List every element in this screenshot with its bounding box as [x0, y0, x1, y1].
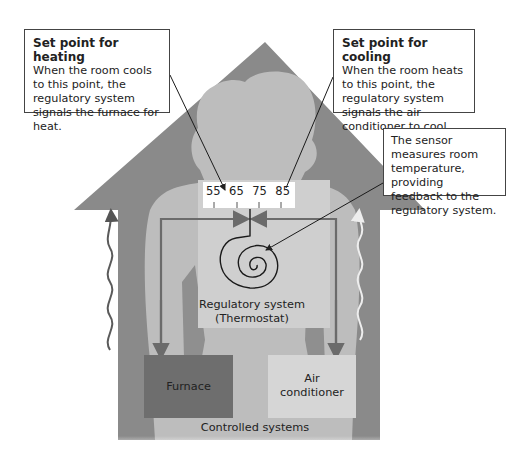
cooling-callout-body: When the room heats to this point, the r…: [342, 64, 463, 133]
sensor-callout-body: The sensor measures room temperature, pr…: [391, 134, 496, 217]
heating-setpoint-callout: Set point for heating When the room cool…: [24, 29, 170, 113]
regulatory-label-line1: Regulatory system: [198, 298, 306, 312]
homeostasis-diagram: Set point for heating When the room cool…: [0, 0, 530, 462]
scale-85: 85: [275, 184, 290, 198]
heat-wave-icon: [108, 212, 113, 350]
sensor-callout: The sensor measures room temperature, pr…: [383, 128, 506, 196]
scale-65: 65: [229, 184, 244, 198]
regulatory-label-line2: (Thermostat): [198, 312, 306, 326]
air-conditioner-label: Air conditioner: [268, 372, 356, 400]
scale-55: 55: [206, 184, 221, 198]
heating-callout-title: Set point for heating: [33, 36, 161, 64]
furnace-label: Furnace: [144, 380, 233, 394]
temperature-scale: 55 65 75 85: [206, 184, 290, 198]
ac-label-line1: Air: [268, 372, 356, 386]
regulatory-system-label: Regulatory system (Thermostat): [198, 298, 306, 326]
scale-75: 75: [252, 184, 267, 198]
controlled-systems-label: Controlled systems: [190, 421, 320, 435]
ac-label-line2: conditioner: [268, 386, 356, 400]
heating-callout-body: When the room cools to this point, the r…: [33, 64, 159, 133]
cooling-setpoint-callout: Set point for cooling When the room heat…: [333, 29, 475, 113]
cooling-callout-title: Set point for cooling: [342, 36, 466, 64]
